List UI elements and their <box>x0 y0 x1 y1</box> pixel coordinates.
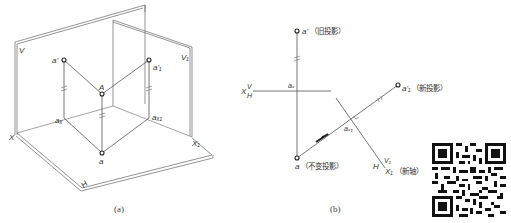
label-V1-b: V₁ <box>384 157 392 164</box>
point-a-prime <box>62 58 66 62</box>
label-X-b: X <box>240 87 247 96</box>
label-X1-b: X₁ <box>384 167 393 176</box>
label-ax: aₓ <box>55 116 63 125</box>
x-axis <box>17 106 113 133</box>
figure-a: V V₁ X X₁ H A a' a'₁ aₓ aₓ₁ a (a) <box>8 5 213 214</box>
label-old-projection: （旧投影） <box>310 26 345 36</box>
label-ax1-b: aₓ₁ <box>344 125 354 132</box>
label-a1-prime-b: a'₁ <box>402 84 411 93</box>
label-a1-prime: a'₁ <box>153 63 162 72</box>
label-ax-b: aₓ <box>288 82 295 89</box>
caption-a: (a) <box>114 204 124 214</box>
label-H-b: H <box>247 92 253 99</box>
label-invariant-projection: （不变投影） <box>301 161 343 171</box>
label-a: a <box>99 157 104 166</box>
label-V-b: V <box>247 83 253 90</box>
label-a-b: a <box>295 162 300 171</box>
equal-length-marks-b <box>294 56 382 102</box>
point-A <box>100 92 104 96</box>
label-H: H <box>79 179 89 190</box>
label-ax1: aₓ₁ <box>152 113 162 122</box>
label-H-new: H <box>373 162 379 171</box>
point-a-prime-b <box>295 29 299 33</box>
point-a1-prime-b <box>396 83 400 87</box>
label-a-prime: a' <box>52 56 58 65</box>
label-new-axis: （新轴） <box>395 166 423 176</box>
label-V: V <box>19 46 25 55</box>
x1-axis-b <box>336 98 385 168</box>
label-new-projection: （新投影） <box>412 83 447 93</box>
label-V1: V₁ <box>181 53 189 62</box>
point-a1-prime <box>147 58 151 62</box>
h-plane <box>16 133 213 191</box>
figure-b: a' （旧投影） aₓ X V H a'₁ （新投影） aₓ₁ a （不变投影）… <box>240 26 447 214</box>
point-a <box>100 151 104 155</box>
label-X: X <box>8 133 15 142</box>
point-a-b <box>295 156 299 160</box>
label-a-prime-b: a' <box>302 27 308 36</box>
label-A: A <box>98 83 104 92</box>
caption-b: (b) <box>330 204 341 214</box>
qr-code[interactable] <box>432 142 506 218</box>
label-X1: X₁ <box>191 139 200 148</box>
